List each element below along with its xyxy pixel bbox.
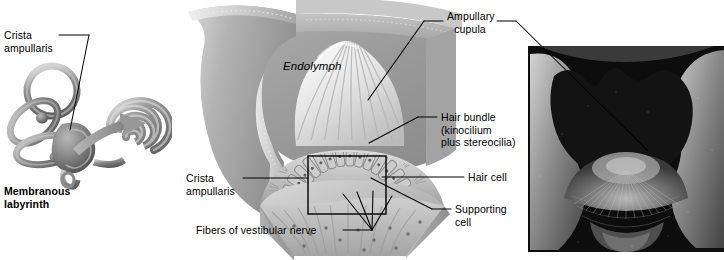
label-ampullary-cupula: Ampullary cupula xyxy=(447,10,493,35)
label-crista-ampullaris-mid: Crista ampullaris xyxy=(186,172,235,197)
leader-cupula-left xyxy=(368,21,424,100)
leader-nerve-fan-4 xyxy=(372,196,392,230)
anatomy-figure: Crista ampullaris Membranous labyrinth E… xyxy=(0,0,724,260)
leader-nerve-fan-1 xyxy=(343,194,372,230)
label-crista-ampullaris-top: Crista ampullaris xyxy=(4,29,53,54)
label-hair-cell: Hair cell xyxy=(468,171,507,184)
leader-nerve-fan-3 xyxy=(372,191,373,230)
label-fibers-of-vestibular-nerve: Fibers of vestibular nerve xyxy=(196,224,316,237)
leader-hairbundle xyxy=(369,117,418,143)
leader-crista-top-diagonal xyxy=(70,35,89,130)
leader-nerve-fan-2 xyxy=(357,192,372,230)
leader-cupula-right xyxy=(516,21,648,151)
label-endolymph: Endolymph xyxy=(283,60,341,73)
label-supporting-cell: Supporting cell xyxy=(455,203,507,228)
leader-supporting xyxy=(371,178,432,209)
label-hair-bundle: Hair bundle (kinocilium plus stereocilia… xyxy=(441,111,516,149)
label-membranous-labyrinth: Membranous labyrinth xyxy=(4,185,70,210)
leader-lines-overlay xyxy=(0,0,724,260)
